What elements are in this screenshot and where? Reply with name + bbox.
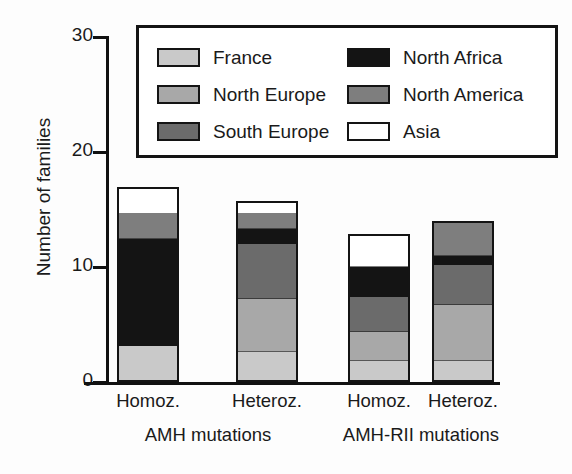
bar-segment[interactable] xyxy=(238,214,296,230)
legend-column-right: North AfricaNorth AmericaAsia xyxy=(347,39,523,150)
y-tick-mark xyxy=(93,36,109,39)
y-tick-mark xyxy=(93,266,109,269)
legend-swatch-icon xyxy=(347,85,390,104)
bar-segment[interactable] xyxy=(119,189,177,215)
x-axis-line xyxy=(84,382,500,385)
bar-stack[interactable] xyxy=(348,234,410,382)
legend-label: North America xyxy=(403,84,523,106)
bar-segment[interactable] xyxy=(434,223,492,256)
bar-stack[interactable] xyxy=(432,221,494,382)
legend-entry[interactable]: Asia xyxy=(347,113,523,150)
x-tick-label: Homoz. xyxy=(83,390,213,412)
legend-entry[interactable]: France xyxy=(157,39,329,76)
bar-segment[interactable] xyxy=(238,203,296,213)
bar-segment[interactable] xyxy=(238,299,296,352)
legend-column-left: FranceNorth EuropeSouth Europe xyxy=(157,39,329,150)
legend-swatch-icon xyxy=(157,48,200,67)
bar-segment[interactable] xyxy=(350,267,408,297)
x-group-label: AMH-RII mutations xyxy=(306,424,536,446)
legend-entry[interactable]: North America xyxy=(347,76,523,113)
bar-segment[interactable] xyxy=(119,346,177,380)
legend-label: North Europe xyxy=(213,84,326,106)
bar-segment[interactable] xyxy=(434,361,492,380)
bar-segment[interactable] xyxy=(238,244,296,299)
bar-segment[interactable] xyxy=(434,265,492,305)
bar-segment[interactable] xyxy=(119,239,177,346)
legend-entry[interactable]: North Africa xyxy=(347,39,523,76)
bar-segment[interactable] xyxy=(350,297,408,332)
y-tick-label: 0 xyxy=(40,369,93,391)
bar-segment[interactable] xyxy=(350,332,408,361)
legend-swatch-icon xyxy=(347,48,390,67)
x-group-label: AMH mutations xyxy=(93,424,323,446)
legend-swatch-icon xyxy=(347,122,390,141)
y-tick-label: 10 xyxy=(40,254,93,276)
bar-segment[interactable] xyxy=(350,361,408,380)
x-tick-label: Heteroz. xyxy=(398,390,528,412)
bar-segment[interactable] xyxy=(434,305,492,361)
stacked-bar-chart-figure: Number of families 3020100 Homoz.Heteroz… xyxy=(0,0,572,474)
legend-label: France xyxy=(213,47,272,69)
legend-swatch-icon xyxy=(157,85,200,104)
y-tick-mark xyxy=(93,151,109,154)
bar-segment[interactable] xyxy=(238,352,296,380)
bar-stack[interactable] xyxy=(117,187,179,383)
legend-label: North Africa xyxy=(403,47,502,69)
legend-label: Asia xyxy=(403,121,440,143)
bar-stack[interactable] xyxy=(236,201,298,382)
legend-label: South Europe xyxy=(213,121,329,143)
legend-swatch-icon xyxy=(157,122,200,141)
y-tick-label: 30 xyxy=(40,24,93,46)
chart-legend: FranceNorth EuropeSouth Europe North Afr… xyxy=(136,25,558,158)
legend-entry[interactable]: South Europe xyxy=(157,113,329,150)
x-tick-label: Heteroz. xyxy=(202,390,332,412)
legend-entry[interactable]: North Europe xyxy=(157,76,329,113)
bar-segment[interactable] xyxy=(238,229,296,244)
y-tick-label: 20 xyxy=(40,139,93,161)
bar-segment[interactable] xyxy=(350,236,408,267)
bar-segment[interactable] xyxy=(434,256,492,265)
bar-segment[interactable] xyxy=(119,214,177,239)
y-axis-label: Number of families xyxy=(33,67,55,327)
